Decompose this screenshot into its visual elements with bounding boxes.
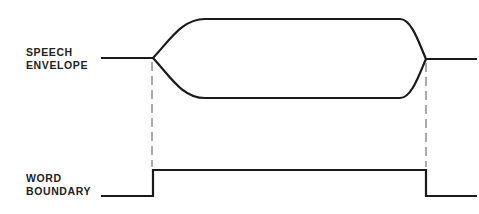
word-boundary-waveform	[101, 170, 477, 196]
alignment-guides	[152, 62, 426, 167]
word-boundary-step	[101, 170, 477, 196]
envelope-lower-curve	[153, 58, 426, 98]
envelope-upper-curve	[153, 19, 426, 59]
timing-diagram	[0, 0, 479, 214]
speech-envelope-waveform	[101, 19, 477, 98]
